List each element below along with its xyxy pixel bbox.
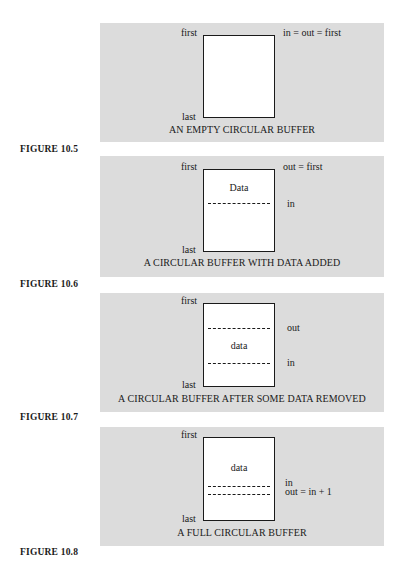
out-pointer-line: [208, 328, 270, 329]
figure-label: FIGURE 10.8: [20, 547, 78, 558]
figure-caption: AN EMPTY CIRCULAR BUFFER: [100, 124, 384, 135]
figure-caption: A CIRCULAR BUFFER WITH DATA ADDED: [100, 257, 384, 268]
figure-label: FIGURE 10.5: [20, 144, 78, 155]
data-region-label: data: [204, 462, 274, 473]
figure-label: FIGURE 10.6: [20, 279, 78, 290]
pointer-label-in-out-first: in = out = first: [283, 27, 341, 38]
figure-10-6-panel: first Data out = first in last A CIRCULA…: [100, 156, 384, 277]
data-region-label: data: [204, 340, 274, 351]
buffer-box: [203, 35, 275, 118]
data-region-label: Data: [204, 182, 274, 193]
in-pointer-line: [208, 486, 270, 487]
buffer-box: Data: [203, 169, 275, 252]
in-pointer-line: [208, 363, 270, 364]
last-label: last: [182, 244, 196, 255]
first-label: first: [181, 429, 197, 440]
figure-caption: A CIRCULAR BUFFER AFTER SOME DATA REMOVE…: [100, 393, 384, 404]
last-label: last: [182, 111, 196, 122]
in-pointer-line: [208, 203, 270, 204]
first-label: first: [181, 295, 197, 306]
last-label: last: [182, 513, 196, 524]
figure-10-5-panel: first in = out = first last AN EMPTY CIR…: [100, 23, 384, 142]
last-label: last: [182, 379, 196, 390]
pointer-label-out-in-plus-1: out = in + 1: [285, 486, 332, 497]
figure-10-7-panel: first data out in last A CIRCULAR BUFFER…: [100, 293, 384, 412]
pointer-label-out: out: [287, 322, 300, 333]
buffer-box: data: [203, 303, 275, 387]
pointer-label-out-first: out = first: [283, 161, 323, 172]
figure-label: FIGURE 10.7: [20, 412, 78, 423]
pointer-label-in: in: [287, 198, 295, 209]
buffer-box: data: [203, 437, 275, 521]
pointer-label-in: in: [287, 357, 295, 368]
out-pointer-line: [208, 494, 270, 495]
first-label: first: [181, 161, 197, 172]
figure-10-8-panel: first data in out = in + 1 last A FULL C…: [100, 427, 384, 546]
figure-caption: A FULL CIRCULAR BUFFER: [100, 527, 384, 538]
first-label: first: [181, 27, 197, 38]
